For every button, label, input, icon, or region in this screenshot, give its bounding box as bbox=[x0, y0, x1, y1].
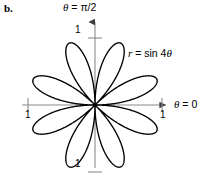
equals-vertical: = bbox=[68, 1, 80, 13]
tick-label-right: 1 bbox=[160, 109, 166, 120]
equation-expression: sin 4 bbox=[144, 47, 166, 59]
equation-equals: = bbox=[132, 47, 144, 59]
value-horizontal: 0 bbox=[191, 98, 197, 110]
theta-symbol-equation: θ bbox=[166, 47, 171, 59]
tick-label-bottom: 1 bbox=[75, 158, 81, 169]
tick-label-top: 1 bbox=[75, 24, 81, 35]
equals-horizontal: = bbox=[179, 98, 191, 110]
polar-rose-figure: b. θ = π/2 θ = 0 r = sin 4θ 1 bbox=[0, 0, 205, 180]
value-vertical: π/2 bbox=[80, 1, 96, 13]
polar-plot-svg bbox=[0, 0, 205, 180]
tick-label-left: 1 bbox=[25, 109, 31, 120]
vertical-axis-label: θ = π/2 bbox=[63, 1, 96, 13]
equation-label: r = sin 4θ bbox=[128, 47, 172, 59]
horizontal-axis-label: θ = 0 bbox=[174, 98, 197, 110]
